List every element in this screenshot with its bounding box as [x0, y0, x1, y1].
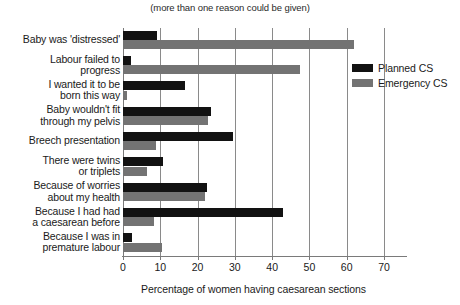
bar-planned-2	[123, 81, 185, 90]
gridline-10	[160, 28, 161, 256]
category-label-line: through my pelvis	[2, 116, 120, 128]
category-label-8: Because I was inpremature labour	[2, 231, 120, 254]
x-tick-label-70: 70	[378, 261, 390, 273]
category-label-4: Breech presentation	[2, 135, 120, 147]
bar-emergency-7	[123, 217, 154, 226]
x-tick-20	[198, 256, 199, 260]
legend-label-1: Emergency CS	[378, 77, 447, 89]
bar-planned-0	[123, 31, 157, 40]
x-tick-label-20: 20	[192, 261, 204, 273]
caesarean-reasons-bar-chart: (more than one reason could be given) Ba…	[0, 0, 460, 305]
x-axis-line	[122, 256, 407, 257]
category-label-line: premature labour	[2, 242, 120, 254]
bar-planned-8	[123, 233, 132, 242]
bar-emergency-5	[123, 167, 147, 176]
bar-planned-6	[123, 183, 207, 192]
gridline-20	[198, 28, 199, 256]
legend-swatch-icon-0	[352, 64, 373, 72]
x-tick-label-0: 0	[120, 261, 126, 273]
category-label-line: Baby wouldn't fit	[2, 104, 120, 116]
category-label-3: Baby wouldn't fitthrough my pelvis	[2, 104, 120, 127]
category-label-5: There were twinsor triplets	[2, 155, 120, 178]
category-label-line: or triplets	[2, 166, 120, 178]
bar-emergency-6	[123, 192, 205, 201]
category-label-line: about my health	[2, 192, 120, 204]
bar-emergency-3	[123, 116, 208, 125]
plot-area: 010203040506070	[123, 28, 384, 256]
x-tick-label-50: 50	[304, 261, 316, 273]
category-label-line: a caesarean before	[2, 217, 120, 229]
x-tick-label-30: 30	[229, 261, 241, 273]
legend-item-0: Planned CS	[352, 62, 447, 74]
category-label-6: Because of worriesabout my health	[2, 180, 120, 203]
category-label-7: Because I had hada caesarean before	[2, 206, 120, 229]
category-label-line: Baby was 'distressed'	[2, 34, 120, 46]
legend-item-1: Emergency CS	[352, 77, 447, 89]
x-tick-50	[309, 256, 310, 260]
gridline-30	[235, 28, 236, 256]
category-label-line: born this way	[2, 90, 120, 102]
category-label-1: Labour failed toprogress	[2, 54, 120, 77]
bar-planned-3	[123, 107, 211, 116]
category-label-0: Baby was 'distressed'	[2, 34, 120, 46]
category-label-2: I wanted it to beborn this way	[2, 79, 120, 102]
x-axis-title: Percentage of women having caesarean sec…	[123, 283, 384, 295]
x-tick-label-40: 40	[266, 261, 278, 273]
gridline-60	[347, 28, 348, 256]
bar-planned-5	[123, 157, 163, 166]
chart-subtitle: (more than one reason could be given)	[0, 2, 460, 13]
x-tick-label-60: 60	[341, 261, 353, 273]
bar-planned-1	[123, 56, 131, 65]
gridline-50	[309, 28, 310, 256]
x-tick-60	[347, 256, 348, 260]
bar-emergency-0	[123, 40, 354, 49]
x-tick-70	[384, 256, 385, 260]
category-label-line: Breech presentation	[2, 135, 120, 147]
bar-planned-7	[123, 208, 283, 217]
bar-emergency-4	[123, 141, 156, 150]
x-tick-30	[235, 256, 236, 260]
bar-planned-4	[123, 132, 233, 141]
legend-swatch-icon-1	[352, 79, 373, 87]
gridline-40	[272, 28, 273, 256]
category-label-column: Baby was 'distressed'Labour failed topro…	[0, 28, 120, 256]
bar-emergency-2	[123, 91, 127, 100]
legend-label-0: Planned CS	[378, 62, 433, 74]
x-tick-10	[160, 256, 161, 260]
x-tick-label-10: 10	[154, 261, 166, 273]
category-label-line: progress	[2, 65, 120, 77]
bar-emergency-1	[123, 65, 300, 74]
category-label-line: Because of worries	[2, 180, 120, 192]
x-tick-40	[272, 256, 273, 260]
bar-emergency-8	[123, 243, 162, 252]
x-tick-0	[123, 256, 124, 260]
chart-legend: Planned CSEmergency CS	[352, 62, 447, 92]
